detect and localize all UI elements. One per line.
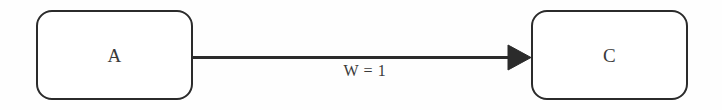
edge-weight-label: W = 1 [310,62,420,80]
arrowhead-icon [508,45,531,70]
graph-node-a-label: A [107,46,121,65]
graph-node-c[interactable]: C [531,10,688,100]
graph-node-c-label: C [603,46,616,65]
diagram-canvas: A C W = 1 [0,0,722,110]
graph-node-a[interactable]: A [36,10,193,100]
